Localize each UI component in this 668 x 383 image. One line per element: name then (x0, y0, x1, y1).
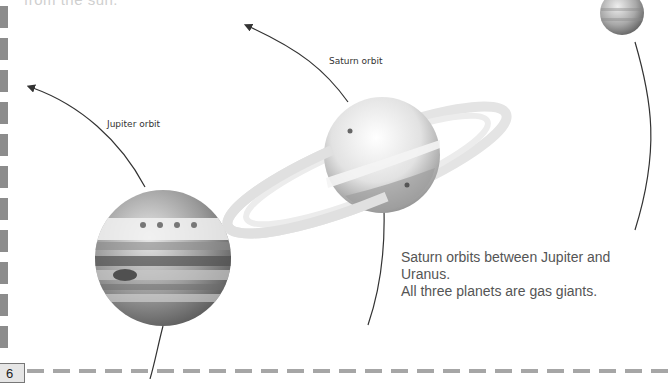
caption-line-2: All three planets are gas giants. (401, 283, 662, 300)
bottom-dashed-border (27, 369, 667, 374)
saturn-orbit-label: Saturn orbit (329, 56, 383, 66)
uranus-illustration (600, 0, 644, 35)
page-number-box: 6 (0, 363, 25, 383)
caption: Saturn orbits between Jupiter and Uranus… (401, 249, 662, 300)
caption-line-1: Saturn orbits between Jupiter and Uranus… (401, 249, 662, 283)
jupiter-illustration (90, 190, 240, 326)
jupiter-orbit-label: Jupiter orbit (107, 119, 160, 129)
uranus-orbit-line (635, 42, 651, 230)
page-number: 6 (6, 366, 13, 381)
saturn-illustration (216, 84, 518, 256)
